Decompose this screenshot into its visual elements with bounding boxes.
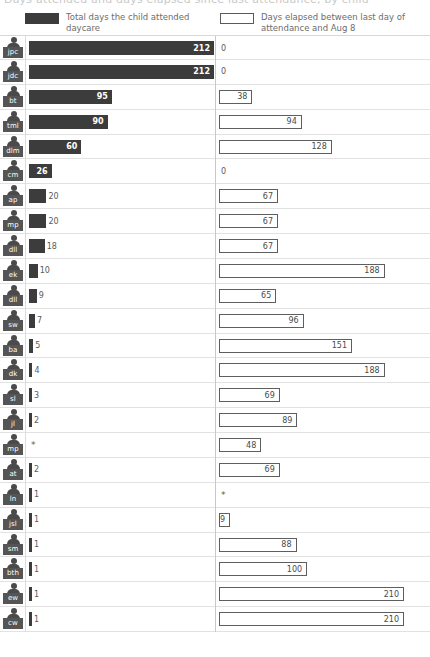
child-identifier: dk — [3, 358, 24, 383]
table-row: ap2067 — [0, 184, 430, 209]
table-row: mp2067 — [0, 209, 430, 234]
zero-value-label: 0 — [221, 65, 226, 79]
bar-days-attended: 212 — [29, 41, 214, 55]
table-row: bt9538 — [0, 85, 430, 110]
table-row: sl369 — [0, 383, 430, 408]
cell-days-attended: 90 — [25, 110, 216, 135]
bar-value-label: 5 — [35, 339, 40, 353]
bar-days-attended — [29, 388, 32, 402]
child-initials-badge: jl — [3, 419, 23, 430]
bar-days-elapsed: 96 — [219, 314, 304, 328]
child-initials-badge: tml — [3, 121, 23, 132]
table-row: mp*48 — [0, 433, 430, 458]
cell-days-elapsed: 38 — [215, 85, 430, 110]
table-row: jl289 — [0, 408, 430, 433]
cell-days-attended: 2 — [25, 408, 216, 433]
table-row: cw1210 — [0, 607, 430, 632]
cell-days-elapsed: 0 — [215, 159, 430, 184]
bar-days-attended: 95 — [29, 90, 112, 104]
table-row: jdc2120 — [0, 60, 430, 85]
cell-days-elapsed: 69 — [215, 458, 430, 483]
cell-days-elapsed: 67 — [215, 209, 430, 234]
bar-days-elapsed: 88 — [219, 538, 297, 552]
bar-value-label: 151 — [332, 341, 351, 350]
bar-value-label: 67 — [263, 192, 277, 201]
bar-days-attended — [29, 264, 38, 278]
cell-days-attended: 9 — [25, 284, 216, 309]
child-initials-badge: dll — [3, 295, 23, 306]
child-initials-badge: ew — [3, 593, 23, 604]
bar-value-label: 9 — [220, 515, 229, 524]
bar-days-elapsed: 67 — [219, 189, 278, 203]
table-row: sw796 — [0, 309, 430, 334]
child-initials-badge: ln — [3, 494, 23, 505]
child-identifier: ba — [3, 334, 24, 359]
table-row: sm188 — [0, 533, 430, 558]
bar-value-label: 210 — [384, 590, 403, 599]
bar-value-label: 69 — [265, 465, 279, 474]
bar-value-label: 1 — [34, 612, 39, 626]
cell-days-attended: 1 — [25, 483, 216, 508]
child-initials-badge: dlm — [3, 146, 23, 157]
bar-value-label: 210 — [384, 615, 403, 624]
bar-days-attended — [29, 538, 32, 552]
child-identifier: tml — [3, 110, 24, 135]
child-identifier: mp — [3, 209, 24, 234]
child-initials-badge: dll — [3, 245, 23, 256]
cell-days-attended: 5 — [25, 334, 216, 359]
cell-days-attended: 212 — [25, 36, 216, 61]
bar-days-elapsed: 210 — [219, 587, 404, 601]
cell-days-elapsed: 210 — [215, 607, 430, 632]
bar-days-elapsed: 67 — [219, 214, 278, 228]
table-row: dlm60128 — [0, 135, 430, 160]
child-initials-badge: cw — [3, 618, 23, 629]
bar-value-label: 1 — [34, 538, 39, 552]
bar-value-label: 2 — [34, 413, 39, 427]
legend-item-elapsed: Days elapsed between last day of attenda… — [215, 9, 430, 35]
bar-days-elapsed: 69 — [219, 388, 280, 402]
suppressed-value-marker: * — [31, 438, 36, 452]
bar-value-label: 67 — [263, 217, 277, 226]
child-identifier: ek — [3, 259, 24, 284]
bar-value-label: 48 — [246, 441, 260, 450]
child-initials-badge: bth — [3, 568, 23, 579]
bar-value-label: 10 — [40, 264, 50, 278]
cell-days-elapsed: 94 — [215, 110, 430, 135]
cell-days-elapsed: 69 — [215, 383, 430, 408]
zero-value-label: 0 — [221, 164, 226, 178]
bar-value-label: 188 — [364, 366, 383, 375]
legend-label-elapsed: Days elapsed between last day of attenda… — [261, 12, 411, 34]
child-identifier: jdc — [3, 60, 24, 85]
bar-days-elapsed: 38 — [219, 90, 252, 104]
filled-dark-swatch-icon — [25, 13, 59, 24]
cell-days-elapsed: 65 — [215, 284, 430, 309]
cell-days-attended: 1 — [25, 557, 216, 582]
table-row: jpc2120 — [0, 35, 430, 60]
bar-value-label: 18 — [47, 239, 57, 253]
bar-value-label: 69 — [265, 391, 279, 400]
bar-days-attended — [29, 214, 46, 228]
bar-value-label: 20 — [48, 189, 58, 203]
cell-days-elapsed: * — [215, 483, 430, 508]
bar-days-attended — [29, 314, 35, 328]
chart-rows: jpc2120jdc2120bt9538tml9094dlm60128cm260… — [0, 35, 430, 632]
cell-days-elapsed: 0 — [215, 36, 430, 61]
cell-days-elapsed: 89 — [215, 408, 430, 433]
cell-days-elapsed: 96 — [215, 309, 430, 334]
legend-label-attended: Total days the child attended daycare — [66, 12, 215, 34]
child-identifier: cw — [3, 607, 24, 632]
cell-days-attended: 10 — [25, 259, 216, 284]
child-identifier: dll — [3, 284, 24, 309]
child-identifier: ln — [3, 483, 24, 508]
table-row: ek10188 — [0, 259, 430, 284]
table-row: dll1867 — [0, 234, 430, 259]
bar-value-label: 38 — [237, 92, 251, 101]
cell-days-attended: 1 — [25, 582, 216, 607]
bar-value-label: 128 — [311, 142, 330, 151]
bar-days-attended — [29, 339, 33, 353]
table-row: tml9094 — [0, 110, 430, 135]
bar-days-elapsed: 65 — [219, 289, 276, 303]
bar-value-label: 95 — [97, 92, 112, 101]
cell-days-attended: 18 — [25, 234, 216, 259]
cell-days-elapsed: 100 — [215, 557, 430, 582]
